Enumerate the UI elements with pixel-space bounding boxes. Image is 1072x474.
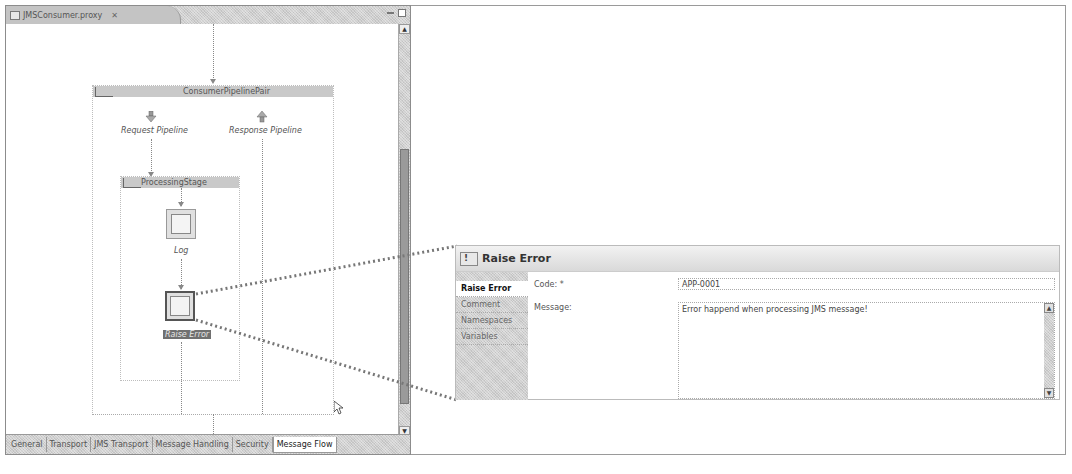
- ptab-namespaces[interactable]: Namespaces: [456, 313, 528, 329]
- message-scroll-up[interactable]: ▲: [1044, 303, 1054, 313]
- raise-error-properties: Raise Error Raise Error Comment Namespac…: [455, 245, 1060, 400]
- properties-tabs: Raise Error Comment Namespaces Variables: [456, 272, 528, 400]
- message-text: Error happend when processing JMS messag…: [682, 305, 868, 314]
- code-field[interactable]: APP-0001: [678, 278, 1055, 290]
- ptab-variables[interactable]: Variables: [456, 329, 528, 345]
- ptab-comment[interactable]: Comment: [456, 297, 528, 313]
- ptab-raise-error[interactable]: Raise Error: [456, 281, 528, 297]
- properties-header: Raise Error: [456, 246, 1059, 272]
- message-scroll-down[interactable]: ▼: [1044, 388, 1054, 398]
- zoom-callout-lines: [0, 0, 1072, 474]
- message-scrollbar[interactable]: ▲ ▼: [1044, 303, 1054, 398]
- properties-body: Code: * APP-0001 Message: Error happend …: [528, 272, 1059, 399]
- properties-title: Raise Error: [482, 252, 551, 265]
- message-label: Message:: [534, 303, 572, 312]
- raise-error-icon: [460, 252, 478, 266]
- message-field[interactable]: Error happend when processing JMS messag…: [678, 302, 1055, 399]
- tabs-spacer: [456, 272, 528, 281]
- code-label: Code: *: [534, 280, 564, 289]
